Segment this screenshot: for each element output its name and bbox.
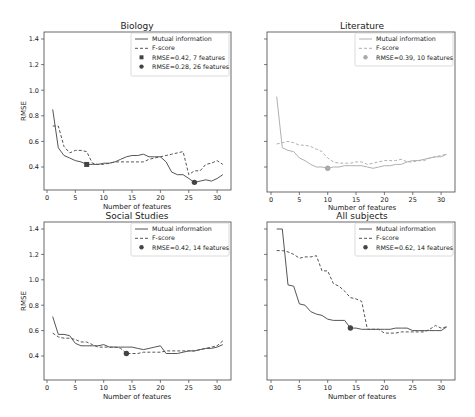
x-tick-label: 10 — [100, 384, 108, 392]
panel-title: Literature — [340, 21, 385, 31]
best-point-marker — [84, 162, 89, 167]
x-tick-label: 15 — [352, 196, 360, 204]
panel-title: Biology — [120, 21, 154, 31]
figure: Biology Number of features RMSE 05101520… — [0, 0, 475, 417]
legend-label: F-score — [376, 234, 399, 241]
x-tick-label: 5 — [297, 384, 301, 392]
best-point-marker — [124, 351, 129, 356]
x-tick-label: 10 — [100, 194, 108, 202]
legend-label: Mutual information — [376, 35, 436, 42]
panel-social-studies: Social Studies Number of features RMSE 0… — [20, 211, 231, 401]
legend: Mutual informationF-scoreRMSE=0.42, 7 fe… — [131, 33, 229, 76]
y-tick-label: 0.4 — [29, 352, 39, 360]
x-tick-label: 10 — [324, 384, 332, 392]
legend-label: F-score — [376, 44, 399, 51]
x-tick-label: 15 — [128, 384, 136, 392]
y-tick-label: 1.4 — [29, 225, 39, 233]
legend: Mutual informationF-scoreRMSE=0.39, 10 f… — [355, 33, 453, 66]
legend: Mutual informationF-scoreRMSE=0.62, 14 f… — [355, 223, 453, 256]
panel-all-subjects: All subjects Number of features 05101520… — [264, 211, 455, 401]
x-tick-label: 30 — [213, 384, 221, 392]
mutual-information-line — [277, 97, 447, 169]
y-tick-label: 0.4 — [29, 163, 39, 171]
x-tick-label: 20 — [156, 194, 164, 202]
legend-marker-swatch — [363, 245, 367, 249]
mutual-information-line — [53, 109, 223, 182]
x-axis-label: Number of features — [328, 393, 397, 401]
x-tick-label: 5 — [297, 196, 301, 204]
x-tick-label: 20 — [156, 384, 164, 392]
x-tick-label: 0 — [45, 384, 49, 392]
y-tick-label: 1.0 — [29, 87, 39, 95]
y-tick-label: 1.2 — [29, 61, 39, 69]
panel-title: All subjects — [336, 211, 388, 221]
f-score-line — [277, 141, 447, 164]
f-score-line — [53, 333, 223, 353]
legend-label: Mutual information — [376, 225, 436, 232]
x-tick-label: 5 — [73, 384, 77, 392]
y-tick-label: 1.0 — [29, 276, 39, 284]
mutual-information-line — [53, 317, 223, 354]
x-tick-label: 20 — [380, 196, 388, 204]
x-tick-label: 0 — [269, 384, 273, 392]
legend-label: RMSE=0.42, 14 features — [152, 244, 229, 251]
legend-marker-swatch — [139, 245, 143, 249]
x-tick-label: 5 — [73, 194, 77, 202]
legend-label: RMSE=0.42, 7 features — [152, 54, 225, 61]
y-tick-label: 1.4 — [29, 35, 39, 43]
y-tick-label: 0.8 — [29, 112, 39, 120]
x-tick-label: 0 — [45, 194, 49, 202]
x-tick-label: 25 — [185, 194, 193, 202]
legend: Mutual informationF-scoreRMSE=0.42, 14 f… — [131, 223, 229, 256]
panel-title: Social Studies — [106, 211, 169, 221]
legend-label: RMSE=0.28, 26 features — [152, 63, 229, 70]
y-axis-label: RMSE — [20, 291, 28, 311]
f-score-line — [277, 251, 447, 334]
x-tick-label: 30 — [213, 194, 221, 202]
legend-label: F-score — [152, 234, 175, 241]
x-tick-label: 30 — [437, 196, 445, 204]
x-tick-label: 0 — [269, 196, 273, 204]
panel-literature: Literature Number of features 0510152025… — [264, 21, 455, 212]
panel-biology: Biology Number of features RMSE 05101520… — [20, 21, 231, 211]
best-point-marker — [325, 166, 330, 171]
x-axis-label: Number of features — [103, 393, 172, 401]
x-tick-label: 15 — [352, 384, 360, 392]
y-tick-label: 1.2 — [29, 251, 39, 259]
legend-marker-swatch — [363, 55, 367, 59]
y-axis-label: RMSE — [20, 101, 28, 121]
x-tick-label: 25 — [409, 384, 417, 392]
x-tick-label: 15 — [128, 194, 136, 202]
x-tick-label: 25 — [409, 196, 417, 204]
x-axis-label: Number of features — [103, 203, 172, 211]
legend-label: Mutual information — [152, 35, 212, 42]
x-tick-label: 10 — [324, 196, 332, 204]
legend-marker-swatch — [139, 64, 143, 68]
y-tick-label: 0.6 — [29, 138, 39, 146]
legend-label: Mutual information — [152, 225, 212, 232]
best-point-marker — [192, 180, 197, 185]
legend-label: RMSE=0.62, 14 features — [376, 244, 453, 251]
legend-label: F-score — [152, 44, 175, 51]
x-tick-label: 20 — [380, 384, 388, 392]
x-tick-label: 25 — [185, 384, 193, 392]
legend-label: RMSE=0.39, 10 features — [376, 54, 453, 61]
y-tick-label: 0.8 — [29, 302, 39, 310]
best-point-marker — [348, 325, 353, 330]
legend-marker-swatch — [140, 55, 144, 59]
x-tick-label: 30 — [437, 384, 445, 392]
y-tick-label: 0.6 — [29, 327, 39, 335]
f-score-line — [53, 126, 223, 175]
